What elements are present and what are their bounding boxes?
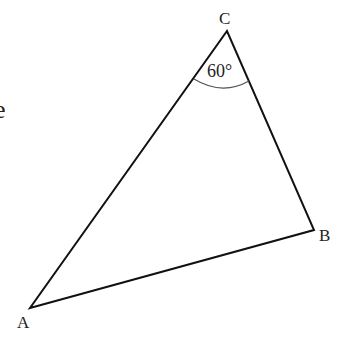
vertex-b-label: B	[319, 226, 330, 245]
angle-c-label: 60°	[207, 61, 232, 81]
partial-text: e	[0, 95, 6, 124]
vertex-c-label: C	[219, 9, 230, 28]
triangle-abc	[30, 31, 314, 308]
vertex-a-label: A	[17, 313, 30, 332]
triangle-diagram: 60° C B A e	[0, 0, 341, 345]
